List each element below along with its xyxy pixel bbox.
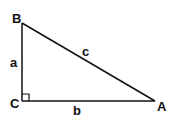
- side-label-c: c: [82, 44, 89, 59]
- side-c-line: [22, 23, 155, 101]
- side-label-b: b: [73, 103, 81, 118]
- right-angle-marker-icon: [22, 94, 29, 101]
- side-label-a: a: [10, 55, 18, 70]
- vertex-label-a: A: [157, 99, 167, 114]
- vertex-label-b: B: [12, 11, 21, 26]
- vertex-label-c: C: [10, 96, 20, 111]
- right-triangle-diagram: B C A a b c: [0, 0, 173, 121]
